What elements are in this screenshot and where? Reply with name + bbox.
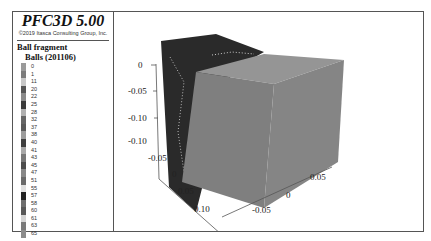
x-tick-2: 0.05 — [310, 172, 326, 182]
legend-swatch — [21, 169, 26, 177]
legend-label: 40 — [31, 139, 37, 147]
legend-swatch — [21, 222, 26, 230]
z-tick-1: -0.05 — [128, 86, 147, 96]
legend-swatch — [21, 154, 26, 162]
legend-label: 1 — [31, 71, 34, 79]
y-tick-2: 0 — [172, 169, 177, 179]
legend-swatch — [21, 200, 26, 208]
x-tick-1: 0 — [286, 190, 291, 200]
legend-swatch — [21, 207, 26, 215]
x-tick-0: -0.05 — [252, 205, 271, 215]
legend-label: 41 — [31, 147, 37, 155]
3d-scene[interactable]: 0 -0.05 -0.10 -0.10 -0.05 0 0.05 0.10 -0… — [114, 12, 425, 231]
legend-label: 11 — [31, 78, 37, 86]
legend-label: 22 — [31, 93, 37, 101]
legend-label: 37 — [31, 124, 37, 132]
y-tick-1: -0.05 — [148, 153, 167, 163]
legend-subheading: Balls (201106) — [25, 52, 76, 62]
plot-frame: PFC3D 5.00 ©2019 Itasca Consulting Group… — [12, 11, 424, 232]
legend-swatch — [21, 230, 26, 238]
plot-viewport[interactable]: 0 -0.05 -0.10 -0.10 -0.05 0 0.05 0.10 -0… — [114, 12, 423, 231]
legend-swatch — [21, 139, 26, 147]
legend-label: 43 — [31, 154, 37, 162]
legend-label: 63 — [31, 222, 37, 230]
legend-label: 0 — [31, 63, 34, 71]
legend-label: 20 — [31, 86, 37, 94]
legend-label: 65 — [31, 230, 37, 238]
app-title: PFC3D 5.00 — [13, 12, 113, 30]
y-tick-0: -0.10 — [128, 136, 147, 146]
legend-panel: PFC3D 5.00 ©2019 Itasca Consulting Group… — [13, 12, 114, 231]
legend-swatch — [21, 116, 26, 124]
legend-swatch — [21, 78, 26, 86]
legend-label: 61 — [31, 215, 37, 223]
legend-label: 47 — [31, 169, 37, 177]
legend-divider — [17, 40, 109, 41]
legend-label: 55 — [31, 185, 37, 193]
legend-swatch — [21, 177, 26, 185]
legend-swatch — [21, 93, 26, 101]
legend-heading: Ball fragment — [17, 42, 67, 52]
legend-swatch — [21, 147, 26, 155]
legend-swatch — [21, 162, 26, 170]
legend-label: 38 — [31, 131, 37, 139]
legend-label: 45 — [31, 162, 37, 170]
legend-swatch — [21, 124, 26, 132]
z-tick-2: -0.10 — [128, 113, 147, 123]
legend-swatch — [21, 185, 26, 193]
legend-label: 28 — [31, 109, 37, 117]
legend-label: 60 — [31, 207, 37, 215]
legend-swatch — [21, 109, 26, 117]
y-tick-4: 0.10 — [194, 204, 210, 214]
legend-label: 57 — [31, 192, 37, 200]
z-tick-0: 0 — [138, 60, 143, 70]
legend-label: 51 — [31, 177, 37, 185]
y-tick-3: 0.05 — [178, 186, 194, 196]
legend-swatch — [21, 215, 26, 223]
legend-swatch — [21, 192, 26, 200]
legend-label: 58 — [31, 200, 37, 208]
legend-label: 25 — [31, 101, 37, 109]
copyright-text: ©2019 Itasca Consulting Group, Inc. — [13, 30, 113, 37]
legend-label: 32 — [31, 116, 37, 124]
legend-swatch — [21, 86, 26, 94]
legend-swatch — [21, 131, 26, 139]
legend-swatch — [21, 71, 26, 79]
legend-swatch — [21, 63, 26, 71]
legend-swatch — [21, 101, 26, 109]
